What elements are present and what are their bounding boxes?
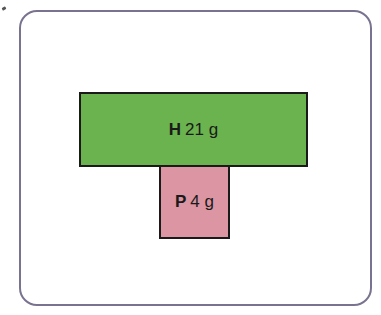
box-h: H 21 g bbox=[79, 92, 308, 167]
box-p-value: 4 g bbox=[190, 192, 214, 212]
box-p: P 4 g bbox=[159, 165, 230, 239]
corner-tick-mark bbox=[2, 6, 7, 11]
box-h-key: H bbox=[169, 120, 181, 140]
box-p-key: P bbox=[175, 192, 186, 212]
box-h-value: 21 g bbox=[185, 120, 218, 140]
